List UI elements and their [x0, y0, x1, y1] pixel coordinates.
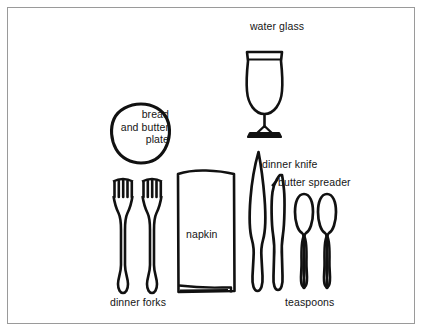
label-water-glass: water glass [227, 20, 327, 33]
label-butter-spreader: butter spreader [278, 176, 351, 189]
label-bread-and-butter-plate: bread and butter plate [49, 108, 169, 146]
label-napkin: napkin [186, 228, 218, 241]
diagram-border [7, 7, 415, 324]
place-setting-diagram: bread and butter plate water glass dinne… [0, 0, 423, 332]
label-dinner-forks: dinner forks [110, 296, 166, 309]
label-dinner-knife: dinner knife [262, 158, 317, 171]
label-teaspoons: teaspoons [285, 296, 334, 309]
